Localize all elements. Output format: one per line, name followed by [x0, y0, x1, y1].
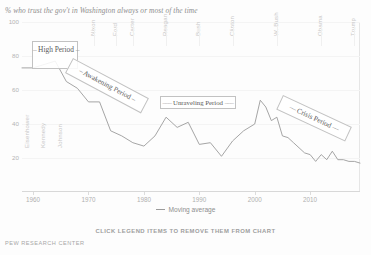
annotation-dash-left: ––– — [163, 99, 172, 106]
legend-swatch-moving-average — [156, 209, 165, 210]
x-axis-tick-label: 1970 — [81, 196, 95, 203]
x-axis-tick-mark — [144, 192, 145, 195]
x-axis-tick-mark — [199, 192, 200, 195]
annotation-dash-right: –– — [331, 123, 340, 133]
annotation-dash-right: ––– — [225, 99, 234, 106]
x-axis-tick-label: 1980 — [137, 196, 151, 203]
annotation-label: High Period — [38, 45, 74, 54]
page-title: % who trust the gov't in Washington alwa… — [5, 6, 305, 15]
y-axis-tick-label: 40 — [2, 121, 19, 127]
x-axis-tick-mark — [310, 192, 311, 195]
annotation-dash-left: – — [33, 45, 36, 54]
x-axis-tick-mark — [88, 192, 89, 195]
chart-page: % who trust the gov't in Washington alwa… — [0, 0, 371, 255]
legend-hint-text: CLICK LEGEND ITEMS TO REMOVE THEM FROM C… — [0, 228, 371, 234]
x-axis-tick-label: 1990 — [192, 196, 206, 203]
legend-item-moving-average[interactable]: Moving average — [169, 206, 216, 213]
source-label: PEW RESEARCH CENTER — [5, 240, 84, 246]
y-axis-tick-label: 60 — [2, 87, 19, 93]
x-axis-tick-label: 2010 — [303, 196, 317, 203]
annotation-unraveling-period: ––– Unraveling Period ––– — [160, 96, 236, 109]
y-axis-tick-label: 100 — [2, 19, 19, 25]
x-axis-tick-mark — [33, 192, 34, 195]
annotation-dash-right: – — [76, 45, 79, 54]
x-axis-tick-label: 2000 — [248, 196, 262, 203]
annotation-dash-right: – — [130, 95, 136, 104]
annotation-label: Unraveling Period — [173, 99, 223, 106]
y-axis-tick-label: 80 — [2, 53, 19, 59]
x-axis-tick-mark — [255, 192, 256, 195]
legend[interactable]: Moving average — [0, 206, 371, 213]
y-axis-tick-label: 20 — [2, 155, 19, 161]
x-axis-tick-label: 1960 — [26, 196, 40, 203]
